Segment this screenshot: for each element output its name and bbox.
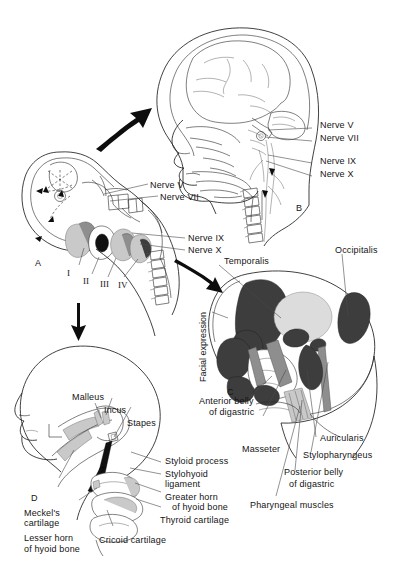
panel-c-label-anterior-belly: Anterior belly [199, 396, 254, 407]
muscle-pterygoid [282, 327, 310, 348]
panel-d-label-malleus: Malleus [72, 392, 104, 403]
panel-d-letter: D [31, 493, 38, 503]
panel-a-label-nerve-vii: Nerve VII [160, 192, 199, 203]
stylohyoid-ligament [88, 467, 104, 492]
panel-d-label-ligament: ligament [165, 479, 200, 490]
panel-c-label-posterior-belly: Posterior belly [284, 467, 343, 478]
panel-c-label-pharyngeal-muscles: Pharyngeal muscles [250, 500, 334, 511]
panel-arrows [71, 108, 223, 341]
panel-b-artwork [157, 28, 319, 246]
panel-a-letter: A [35, 258, 41, 268]
panel-d-label-incus: Incus [104, 405, 126, 416]
panel-d-label-lesser-horn: Lesser horn [24, 533, 73, 544]
panel-b-letter: B [296, 203, 302, 213]
panel-d-label-greater-horn-2: of hyoid bone [172, 502, 228, 513]
panel-d-label-lesser-horn-2: of hyoid bone [24, 544, 80, 555]
orbit-region [274, 292, 332, 342]
muscle-occipitalis [338, 293, 370, 344]
arrow-a-to-d [71, 303, 86, 341]
muscle-facial-expression-sheet [217, 338, 252, 380]
muscle-masseter-origin [232, 330, 263, 368]
arch-numeral-iii: III [100, 279, 109, 289]
panel-b-label-nerve-v: Nerve V [320, 120, 354, 131]
muscle-posterior-digastric [299, 345, 323, 390]
panel-d-label-meckels-2: cartilage [24, 518, 59, 529]
panel-c-label-occipitalis: Occipitalis [335, 245, 378, 256]
panel-a-label-nerve-x: Nerve X [188, 245, 222, 256]
panel-c-label-masseter: Masseter [242, 444, 280, 455]
bone-mandible [248, 350, 297, 399]
styloid-process [97, 441, 112, 479]
panel-a-label-nerve-ix: Nerve IX [188, 233, 224, 244]
panel-a-label-nerve-v: Nerve V [150, 180, 184, 191]
panel-d-label-greater-horn: Greater horn [165, 492, 218, 503]
panel-b-label-nerve-ix: Nerve IX [320, 156, 356, 167]
muscle-stylohyoid-patch [309, 337, 328, 353]
panel-c-artwork [209, 271, 377, 458]
muscle-temporalis [235, 280, 287, 355]
panel-d-label-stapes: Stapes [127, 418, 156, 429]
ossicle-malleus [94, 410, 103, 426]
hyoid-bone [91, 472, 138, 502]
anatomy-figure: A Nerve V Nerve VII Nerve IX Nerve X I I… [0, 0, 397, 577]
panel-c-label-temporalis: Temporalis [224, 256, 269, 267]
arch-numeral-i: I [67, 268, 70, 278]
arrow-a-to-c [174, 259, 223, 293]
muscle-anterior-digastric [254, 385, 279, 405]
arrow-a-to-b [96, 108, 152, 152]
ossicle-stapes [108, 432, 118, 442]
panel-c-label-stylopharyngeus: Stylopharyngeus [303, 450, 372, 461]
muscle-pharyngeal-fan [284, 388, 312, 422]
panel-c-label-facial-expression: Facial expression [198, 312, 208, 382]
figure-artwork [0, 0, 397, 577]
panel-d-label-meckels: Meckel's [24, 508, 60, 519]
cartilage-meckel [63, 417, 99, 440]
muscle-arch2-strap [266, 340, 292, 387]
thyroid-cartilage [92, 492, 143, 523]
lesser-horn [93, 480, 100, 489]
panel-b-leaders [265, 128, 312, 176]
arch-numeral-iv: IV [118, 280, 128, 290]
panel-d-label-stylohyoid: Stylohyoid [165, 469, 208, 480]
panel-b-label-nerve-vii: Nerve VII [320, 133, 359, 144]
panel-c-label-posterior-belly-2: of digastric [289, 479, 334, 490]
muscle-stylopharyngeus-strap [318, 346, 331, 412]
panel-d-label-styloid-process: Styloid process [165, 456, 228, 467]
panel-b-label-nerve-x: Nerve X [320, 169, 354, 180]
panel-d-label-thyroid-cartilage: Thyroid cartilage [160, 515, 229, 526]
panel-d-label-cricoid-cartilage: Cricoid cartilage [99, 535, 166, 546]
panel-c-label-anterior-belly-2: of digastric [209, 407, 254, 418]
panel-c-label-auricularis: Auricularis [320, 433, 364, 444]
arch-numeral-ii: II [83, 276, 89, 286]
